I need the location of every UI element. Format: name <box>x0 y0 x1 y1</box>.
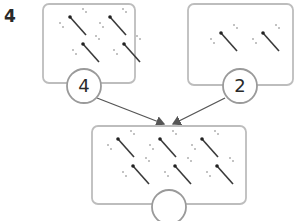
arrow-right <box>173 98 225 124</box>
answer-input[interactable] <box>151 189 187 221</box>
part-label-right: 2 <box>222 68 258 104</box>
arrow-left <box>97 98 164 124</box>
part-label-left: 4 <box>66 68 102 104</box>
part-whole-diagram <box>0 0 298 221</box>
